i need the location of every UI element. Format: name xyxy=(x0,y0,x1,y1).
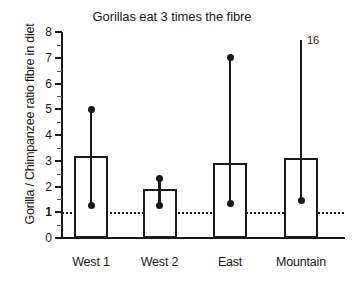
error-bar-mountain xyxy=(300,40,303,201)
y-tick-label: 4 xyxy=(34,129,52,141)
y-tick-label: 1 xyxy=(34,206,52,218)
plot-area: 16 xyxy=(61,32,345,238)
error-bar-west-1 xyxy=(90,109,93,206)
error-bar-east xyxy=(229,58,232,203)
x-tick-label-east: East xyxy=(190,255,270,269)
y-tick-label: 0 xyxy=(34,232,52,244)
error-dot-lower-mountain xyxy=(298,197,305,204)
y-tick-label: 8 xyxy=(34,26,52,38)
error-dot-upper-west-2 xyxy=(156,175,163,182)
chart-title: Gorillas eat 3 times the fibre xyxy=(62,9,282,24)
gorilla-fibre-ratio-chart: Gorillas eat 3 times the fibre Gorilla /… xyxy=(0,0,356,285)
x-tick-label-mountain: Mountain xyxy=(261,255,341,269)
y-tick-label: 7 xyxy=(34,52,52,64)
y-axis-label: Gorilla / Chimpanzee ratio fibre in diet xyxy=(23,9,37,239)
x-tick-label-west-2: West 2 xyxy=(120,255,200,269)
error-dot-lower-east xyxy=(227,200,234,207)
error-dot-upper-west-1 xyxy=(88,106,95,113)
y-tick-label: 3 xyxy=(34,155,52,167)
y-tick-label: 5 xyxy=(34,103,52,115)
y-tick-label: 2 xyxy=(34,181,52,193)
error-dot-lower-west-1 xyxy=(88,202,95,209)
error-dot-upper-east xyxy=(227,54,234,61)
error-upper-value-annotation: 16 xyxy=(307,35,319,46)
y-tick-label: 6 xyxy=(34,78,52,90)
